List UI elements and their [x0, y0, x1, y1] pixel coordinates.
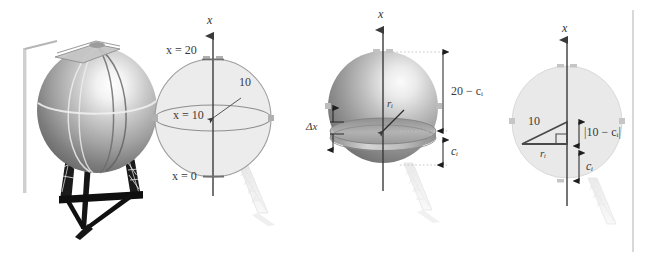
label-ci-panel3: cᵢ [451, 145, 458, 157]
ghost-tower-2 [239, 165, 275, 226]
label-x-equals-20: x = 20 [166, 44, 197, 56]
ghost-tower-4 [588, 178, 616, 224]
label-radius-10-panel2: 10 [239, 76, 251, 88]
label-x-equals-10: x = 10 [173, 109, 204, 121]
standpipe [23, 48, 26, 193]
label-delta-x: Δx [306, 121, 317, 132]
axis-label-x-panel3: x [378, 8, 383, 20]
label-hypotenuse-10: 10 [528, 115, 540, 127]
label-slice-radius-panel3: rᵢ [387, 98, 393, 109]
label-x-equals-0: x = 0 [172, 170, 197, 182]
axis-label-x-panel4: x [562, 22, 567, 34]
handrail [25, 41, 57, 49]
axis-label-x-panel2: x [207, 14, 212, 26]
label-ci-panel4: cᵢ [586, 160, 593, 172]
label-abs-10-minus-ci: |10 − cᵢ| [584, 126, 621, 138]
tank-sphere-photo [37, 41, 157, 173]
ghost-tower-3 [404, 163, 440, 223]
panel-sphere-scale [152, 36, 275, 226]
panel-water-tower-photo [23, 41, 157, 240]
figure-vector-layer [0, 0, 645, 261]
panel-shaded-slice [325, 30, 448, 223]
figure-canvas: x x = 20 x = 10 x = 0 10 x Δx rᵢ 20 − cᵢ… [0, 0, 645, 261]
label-20-minus-ci: 20 − cᵢ [451, 85, 483, 97]
label-base-ri: rᵢ [540, 148, 546, 159]
